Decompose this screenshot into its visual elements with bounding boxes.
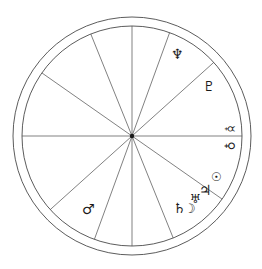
pluto-glyph: ♇ — [203, 79, 216, 93]
house-cusp-spoke — [132, 33, 170, 136]
house-cusp-spoke — [50, 136, 132, 210]
house-cusp-spoke — [42, 73, 132, 136]
chart-center-point — [130, 134, 134, 138]
neptune-glyph: ♆ — [171, 47, 184, 61]
house-cusp-spoke — [132, 62, 214, 136]
center-dot — [130, 134, 134, 138]
jupiter-glyph: ♃ — [199, 183, 212, 197]
mars-glyph: ♂ — [82, 202, 95, 216]
moon-glyph: ☽ — [184, 202, 196, 215]
chart-wheel-graphic — [0, 0, 262, 269]
venus-glyph: ♀ — [224, 142, 236, 151]
mercury-glyph: ☿ — [224, 125, 236, 132]
house-cusp-spoke — [132, 136, 173, 238]
sun-glyph: ☉ — [211, 171, 222, 183]
house-cusp-spoke — [91, 34, 132, 136]
astrology-chart-wheel: ♆♇☿♀☉♃♅♄☽♂ — [0, 0, 262, 269]
house-cusp-spoke — [94, 136, 132, 239]
